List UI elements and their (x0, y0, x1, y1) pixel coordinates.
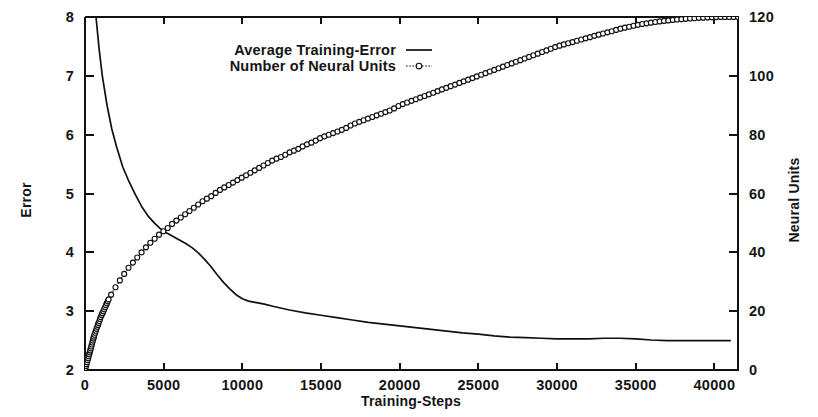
x-axis-title: Training-Steps (361, 393, 461, 409)
series-marker (113, 285, 118, 290)
series-marker (122, 271, 127, 276)
series-marker (117, 278, 122, 283)
series-marker (135, 255, 140, 260)
x-tick-label: 40000 (693, 377, 735, 393)
x-tick-label: 35000 (615, 377, 657, 393)
x-axis-tick-labels: 0500010000150002000025000300003500040000 (81, 377, 735, 393)
x-tick-label: 5000 (147, 377, 180, 393)
y2-tick-label: 20 (749, 303, 766, 319)
legend-sample-marker (416, 63, 422, 69)
x-tick-label: 25000 (457, 377, 499, 393)
chart-canvas: 0500010000150002000025000300003500040000… (0, 0, 818, 417)
y-tick-label: 8 (66, 9, 74, 25)
series-marker (126, 265, 131, 270)
y-tick-label: 7 (66, 68, 74, 84)
series-marker (165, 225, 170, 230)
y-tick-label: 6 (66, 127, 74, 143)
x-tick-label: 0 (81, 377, 89, 393)
y2-tick-label: 120 (749, 9, 774, 25)
y2-tick-label: 0 (749, 362, 757, 378)
legend-label-average-training-error: Average Training-Error (234, 42, 396, 58)
y-axis-left-title: Error (18, 182, 34, 218)
chart-figure: 0500010000150002000025000300003500040000… (0, 0, 818, 417)
y-tick-label: 2 (66, 362, 74, 378)
series-marker (148, 240, 153, 245)
x-tick-label: 15000 (300, 377, 342, 393)
x-tick-label: 20000 (379, 377, 421, 393)
legend-label-number-of-neural-units: Number of Neural Units (230, 58, 396, 74)
x-tick-label: 30000 (536, 377, 578, 393)
series-marker (139, 250, 144, 255)
series-marker (130, 260, 135, 265)
y2-tick-label: 40 (749, 244, 766, 260)
y2-tick-label: 80 (749, 127, 766, 143)
y-axis-right-title: Neural Units (786, 158, 802, 243)
series-marker (152, 236, 157, 241)
series-marker (143, 245, 148, 250)
y2-tick-label: 100 (749, 68, 774, 84)
x-tick-label: 10000 (221, 377, 263, 393)
y-tick-label: 5 (66, 186, 74, 202)
series-marker (106, 297, 111, 302)
y-tick-label: 3 (66, 303, 74, 319)
chart-background (0, 0, 818, 417)
y2-tick-label: 60 (749, 186, 766, 202)
series-marker (157, 232, 162, 237)
y-tick-label: 4 (66, 244, 74, 260)
